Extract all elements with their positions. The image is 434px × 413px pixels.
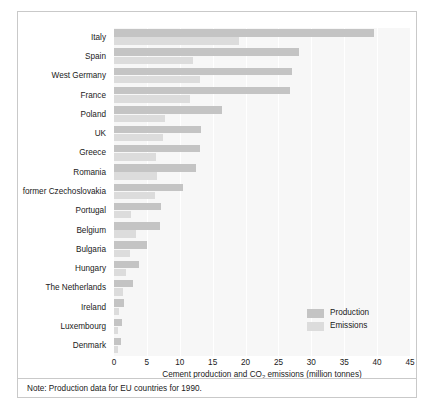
- bar-row: [114, 86, 410, 105]
- bar-row: [114, 47, 410, 66]
- gridline-45: [410, 28, 411, 356]
- bar-production: [114, 164, 196, 171]
- plot-area: [114, 28, 410, 356]
- bar-production: [114, 338, 121, 345]
- bar-row: [114, 240, 410, 259]
- category-label: Luxembourg: [0, 322, 106, 332]
- bar-production: [114, 68, 292, 75]
- legend-label: Production: [330, 308, 369, 318]
- category-label: UK: [0, 129, 106, 139]
- note-text: Note: Production data for EU countries f…: [27, 383, 202, 395]
- x-tick-label: 20: [241, 358, 250, 368]
- category-label: Spain: [0, 52, 106, 62]
- x-tick-label: 40: [373, 358, 382, 368]
- bar-emissions: [114, 308, 119, 315]
- bar-emissions: [114, 57, 193, 64]
- bar-row: [114, 221, 410, 240]
- category-label: Belgium: [0, 226, 106, 236]
- bar-production: [114, 184, 183, 191]
- category-label: former Czechoslovakia: [0, 187, 106, 197]
- x-tick-label: 15: [208, 358, 217, 368]
- bar-emissions: [114, 346, 118, 353]
- category-label: Ireland: [0, 303, 106, 313]
- bar-emissions: [114, 327, 118, 334]
- x-axis-title: Cement production and CO2 emissions (mil…: [114, 369, 410, 381]
- x-tick-label: 35: [340, 358, 349, 368]
- bar-emissions: [114, 192, 155, 199]
- bar-emissions: [114, 153, 156, 160]
- bar-rows: [114, 28, 410, 356]
- figure-panel: ItalySpainWest GermanyFrancePolandUKGree…: [17, 11, 417, 398]
- x-tick-label: 45: [405, 358, 414, 368]
- bar-production: [114, 29, 374, 36]
- bar-production: [114, 48, 299, 55]
- legend-label: Emissions: [330, 321, 367, 331]
- bar-production: [114, 106, 222, 113]
- bar-production: [114, 87, 290, 94]
- category-label: France: [0, 91, 106, 101]
- bar-row: [114, 182, 410, 201]
- category-label: Portugal: [0, 206, 106, 216]
- bar-row: [114, 67, 410, 86]
- x-tick-label: 0: [112, 358, 117, 368]
- x-tick-label: 5: [145, 358, 150, 368]
- category-label: Bulgaria: [0, 245, 106, 255]
- category-label: Hungary: [0, 264, 106, 274]
- bar-emissions: [114, 115, 165, 122]
- bar-emissions: [114, 172, 157, 179]
- bar-emissions: [114, 230, 136, 237]
- legend-item: Emissions: [307, 321, 407, 331]
- category-label: Romania: [0, 168, 106, 178]
- bar-row: [114, 337, 410, 356]
- bar-row: [114, 28, 410, 47]
- bar-row: [114, 124, 410, 143]
- category-label: Denmark: [0, 341, 106, 351]
- category-label: The Netherlands: [0, 283, 106, 293]
- legend-swatch: [307, 309, 324, 318]
- bar-production: [114, 241, 147, 248]
- category-label: West Germany: [0, 71, 106, 81]
- bar-production: [114, 261, 139, 268]
- bar-production: [114, 319, 122, 326]
- bar-emissions: [114, 211, 131, 218]
- category-axis-labels: ItalySpainWest GermanyFrancePolandUKGree…: [18, 28, 110, 356]
- category-label: Poland: [0, 110, 106, 120]
- category-label: Greece: [0, 148, 106, 158]
- x-axis-title-subscript: 2: [262, 374, 265, 380]
- bar-emissions: [114, 76, 200, 83]
- category-label: Italy: [0, 33, 106, 43]
- bar-row: [114, 279, 410, 298]
- bar-production: [114, 203, 161, 210]
- bar-production: [114, 280, 133, 287]
- note-divider: [18, 378, 416, 379]
- bar-production: [114, 126, 201, 133]
- x-tick-label: 30: [307, 358, 316, 368]
- bar-production: [114, 222, 160, 229]
- chart-legend: ProductionEmissions: [307, 308, 407, 334]
- bar-production: [114, 299, 124, 306]
- bar-emissions: [114, 37, 239, 44]
- bar-emissions: [114, 288, 123, 295]
- bar-emissions: [114, 250, 130, 257]
- bar-row: [114, 144, 410, 163]
- legend-swatch: [307, 322, 324, 331]
- x-tick-label: 25: [274, 358, 283, 368]
- legend-item: Production: [307, 308, 407, 318]
- bar-production: [114, 145, 200, 152]
- bar-row: [114, 105, 410, 124]
- bar-emissions: [114, 134, 163, 141]
- bar-emissions: [114, 95, 190, 102]
- bar-row: [114, 163, 410, 182]
- x-tick-label: 10: [175, 358, 184, 368]
- bar-emissions: [114, 269, 126, 276]
- bar-row: [114, 202, 410, 221]
- bar-row: [114, 260, 410, 279]
